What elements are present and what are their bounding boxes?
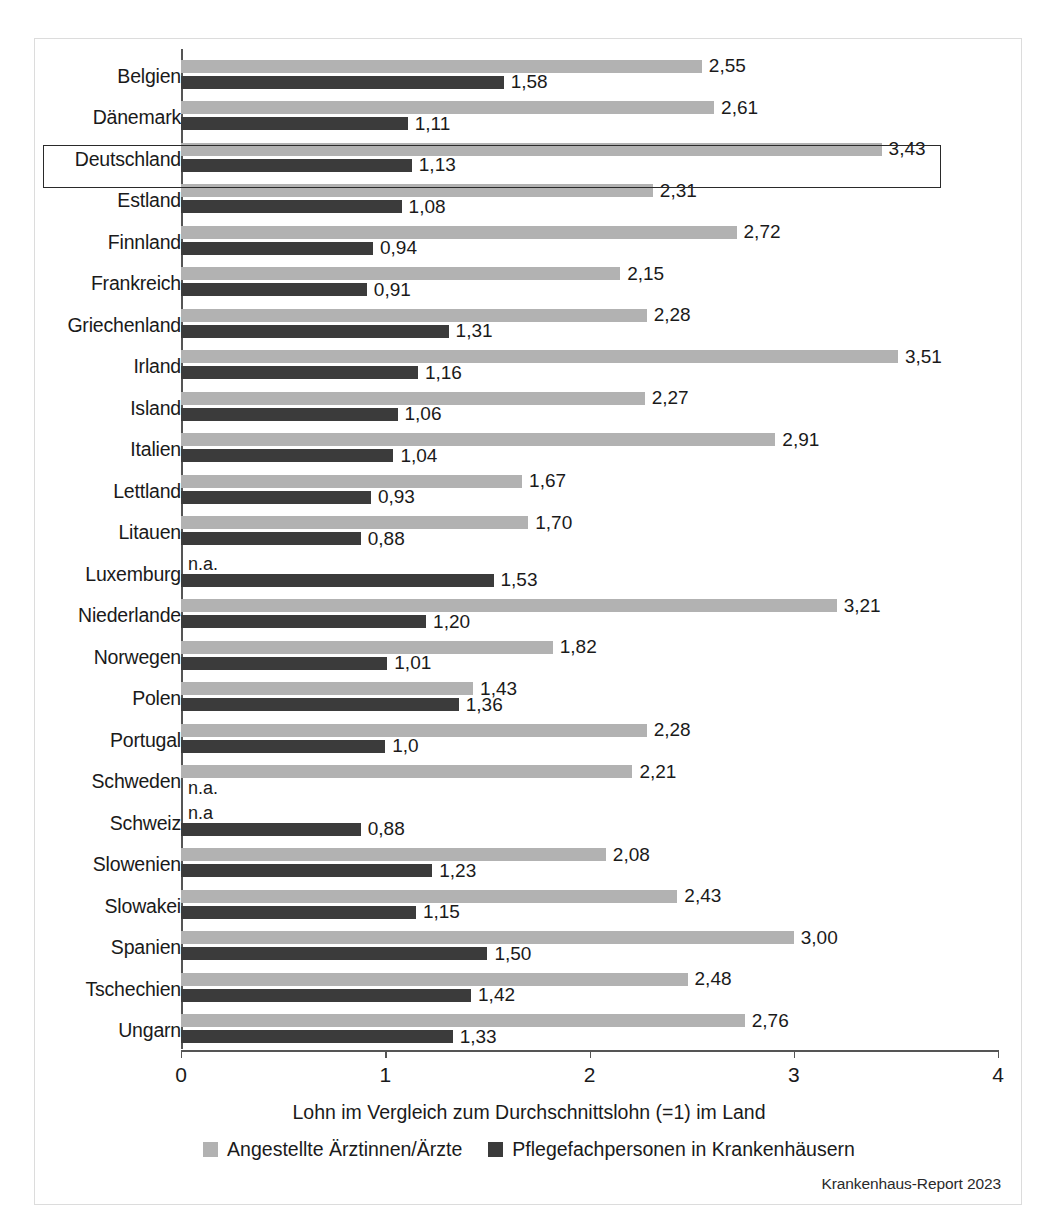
bar-light-griechenland[interactable] <box>181 309 647 322</box>
plot-area: Belgien2,551,58Dänemark2,611,11Deutschla… <box>35 39 1023 1206</box>
bar-light-belgien[interactable] <box>181 60 702 73</box>
bar-light-irland[interactable] <box>181 350 898 363</box>
category-label-irland: Irland <box>133 355 181 378</box>
bar-light-schweden[interactable] <box>181 765 632 778</box>
value-label-dark-island: 1,06 <box>398 403 442 425</box>
bar-dark-niederlande[interactable] <box>181 615 426 628</box>
bar-light-slowenien[interactable] <box>181 848 606 861</box>
value-label-dark-norwegen: 1,01 <box>387 652 431 674</box>
bar-dark-spanien[interactable] <box>181 947 487 960</box>
bar-row: Spanien3,001,50 <box>35 927 1023 969</box>
bar-dark-norwegen[interactable] <box>181 657 387 670</box>
bar-light-tschechien[interactable] <box>181 973 688 986</box>
bar-dark-slowenien[interactable] <box>181 864 432 877</box>
bar-dark-irland[interactable] <box>181 366 418 379</box>
bar-dark-belgien[interactable] <box>181 76 504 89</box>
chart-figure: Belgien2,551,58Dänemark2,611,11Deutschla… <box>34 38 1022 1205</box>
value-label-dark-irland: 1,16 <box>418 362 462 384</box>
category-label-belgien: Belgien <box>117 64 181 87</box>
value-label-light-schweden: 2,21 <box>632 761 676 783</box>
bar-dark-polen[interactable] <box>181 698 459 711</box>
bar-dark-dänemark[interactable] <box>181 117 408 130</box>
bar-group: 2,720,94 <box>181 221 1023 263</box>
value-label-dark-tschechien: 1,42 <box>471 984 515 1006</box>
category-label-luxemburg: Luxemburg <box>85 562 181 585</box>
bar-group: 2,611,11 <box>181 97 1023 139</box>
value-label-dark-schweiz: 0,88 <box>361 818 405 840</box>
bar-light-litauen[interactable] <box>181 516 528 529</box>
value-label-dark-italien: 1,04 <box>393 445 437 467</box>
bar-group: 2,431,15 <box>181 885 1023 927</box>
value-label-light-belgien: 2,55 <box>702 55 746 77</box>
bar-group: 3,001,50 <box>181 927 1023 969</box>
bar-row: Estland2,311,08 <box>35 180 1023 222</box>
value-label-dark-litauen: 0,88 <box>361 528 405 550</box>
bar-light-polen[interactable] <box>181 682 473 695</box>
value-label-light-slowakei: 2,43 <box>677 885 721 907</box>
value-label-dark-ungarn: 1,33 <box>453 1026 497 1048</box>
bar-dark-estland[interactable] <box>181 200 402 213</box>
bar-light-norwegen[interactable] <box>181 641 553 654</box>
bar-group: 3,431,13 <box>181 138 1023 180</box>
bar-group: 2,551,58 <box>181 55 1023 97</box>
bar-row: Deutschland3,431,13 <box>35 138 1023 180</box>
value-label-light-lettland: 1,67 <box>522 470 566 492</box>
bar-group: n.a0,88 <box>181 802 1023 844</box>
bar-dark-italien[interactable] <box>181 449 393 462</box>
value-label-light-dänemark: 2,61 <box>714 97 758 119</box>
value-label-light-litauen: 1,70 <box>528 512 572 534</box>
bar-row: Schweden2,21n.a. <box>35 761 1023 803</box>
bar-dark-griechenland[interactable] <box>181 325 449 338</box>
category-label-slowenien: Slowenien <box>93 853 181 876</box>
bar-dark-luxemburg[interactable] <box>181 574 494 587</box>
bar-light-deutschland[interactable] <box>181 143 882 156</box>
value-label-light-norwegen: 1,82 <box>553 636 597 658</box>
category-label-frankreich: Frankreich <box>91 272 181 295</box>
value-label-light-griechenland: 2,28 <box>647 304 691 326</box>
bar-dark-lettland[interactable] <box>181 491 371 504</box>
bar-row: Luxemburgn.a.1,53 <box>35 553 1023 595</box>
bar-dark-ungarn[interactable] <box>181 1030 453 1043</box>
legend-entry-aerztinnen[interactable]: Angestellte Ärztinnen/Ärzte <box>203 1138 462 1161</box>
bar-light-finnland[interactable] <box>181 226 737 239</box>
bar-group: 2,21n.a. <box>181 761 1023 803</box>
value-label-dark-slowenien: 1,23 <box>432 860 476 882</box>
x-tick-label-3: 3 <box>788 1063 800 1087</box>
category-label-finnland: Finnland <box>108 230 181 253</box>
x-tick-label-0: 0 <box>175 1063 187 1087</box>
bar-row: Tschechien2,481,42 <box>35 968 1023 1010</box>
category-label-deutschland: Deutschland <box>75 147 181 170</box>
bar-dark-tschechien[interactable] <box>181 989 471 1002</box>
bar-dark-finnland[interactable] <box>181 242 373 255</box>
bar-group: 1,670,93 <box>181 470 1023 512</box>
category-label-portugal: Portugal <box>110 728 181 751</box>
bar-light-italien[interactable] <box>181 433 775 446</box>
bar-dark-frankreich[interactable] <box>181 283 367 296</box>
category-label-schweiz: Schweiz <box>110 811 181 834</box>
bar-row: Slowenien2,081,23 <box>35 844 1023 886</box>
bar-dark-slowakei[interactable] <box>181 906 416 919</box>
bar-dark-island[interactable] <box>181 408 398 421</box>
source-note: Krankenhaus-Report 2023 <box>821 1175 1001 1193</box>
bar-row: Polen1,431,36 <box>35 678 1023 720</box>
x-axis-title: Lohn im Vergleich zum Durchschnittslohn … <box>35 1101 1023 1124</box>
na-label-dark-schweden: n.a. <box>181 777 218 798</box>
legend-entry-pflegefachpersonen[interactable]: Pflegefachpersonen in Krankenhäusern <box>488 1138 855 1161</box>
bar-group: 2,271,06 <box>181 387 1023 429</box>
value-label-dark-frankreich: 0,91 <box>367 279 411 301</box>
x-tick <box>794 1050 795 1058</box>
bar-group: 2,311,08 <box>181 180 1023 222</box>
value-label-dark-luxemburg: 1,53 <box>494 569 538 591</box>
value-label-dark-portugal: 1,0 <box>385 735 418 757</box>
bar-dark-portugal[interactable] <box>181 740 385 753</box>
bar-dark-deutschland[interactable] <box>181 159 412 172</box>
category-label-litauen: Litauen <box>118 521 181 544</box>
category-label-tschechien: Tschechien <box>85 977 181 1000</box>
bar-dark-schweiz[interactable] <box>181 823 361 836</box>
bar-light-lettland[interactable] <box>181 475 522 488</box>
value-label-dark-niederlande: 1,20 <box>426 611 470 633</box>
bar-row: Litauen1,700,88 <box>35 512 1023 554</box>
bar-light-niederlande[interactable] <box>181 599 837 612</box>
bar-dark-litauen[interactable] <box>181 532 361 545</box>
category-label-griechenland: Griechenland <box>67 313 181 336</box>
